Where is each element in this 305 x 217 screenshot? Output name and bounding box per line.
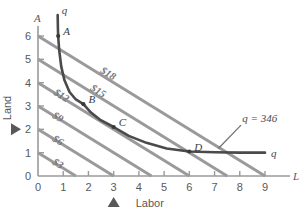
x-axis-marker: [108, 197, 120, 207]
x-tick-label: 2: [85, 181, 91, 193]
x-tick-label: 6: [186, 181, 192, 193]
data-point-label: B: [88, 93, 95, 105]
data-point-label: D: [193, 141, 202, 153]
isoquant-isocost-chart: 01234567890123456LALaborLand$3$6$9$12$15…: [0, 0, 305, 217]
y-axis-label: Land: [1, 96, 13, 120]
data-point-label: A: [62, 25, 70, 37]
isoquant-annotation: q = 346: [242, 112, 277, 124]
x-axis-symbol: L: [292, 170, 299, 182]
annotation-leader-line: [218, 125, 241, 148]
y-tick-label: 1: [25, 147, 31, 159]
y-tick-label: 5: [25, 53, 31, 65]
x-axis-label: Labor: [136, 197, 164, 209]
isoquant-top-label: q: [62, 4, 68, 16]
y-axis-symbol: A: [33, 12, 41, 24]
data-point: [56, 34, 60, 38]
x-tick-label: 9: [262, 181, 268, 193]
data-point: [81, 102, 85, 106]
isoquant-end-label: q: [271, 147, 277, 159]
x-tick-label: 8: [237, 181, 243, 193]
y-tick-label: 4: [25, 77, 31, 89]
data-point-label: C: [119, 116, 127, 128]
y-tick-label: 0: [25, 170, 31, 182]
x-tick-label: 0: [35, 181, 41, 193]
y-tick-label: 3: [25, 100, 31, 112]
x-tick-label: 1: [60, 181, 66, 193]
isocost-line: [38, 129, 114, 176]
data-point: [187, 149, 191, 153]
data-point: [112, 125, 116, 129]
x-tick-label: 7: [211, 181, 217, 193]
x-tick-label: 3: [111, 181, 117, 193]
y-tick-label: 2: [25, 123, 31, 135]
x-tick-label: 4: [136, 181, 142, 193]
y-tick-label: 6: [25, 30, 31, 42]
y-axis-marker: [11, 123, 21, 135]
isocost-line: [38, 36, 265, 176]
x-tick-label: 5: [161, 181, 167, 193]
isocost-line: [38, 59, 227, 176]
